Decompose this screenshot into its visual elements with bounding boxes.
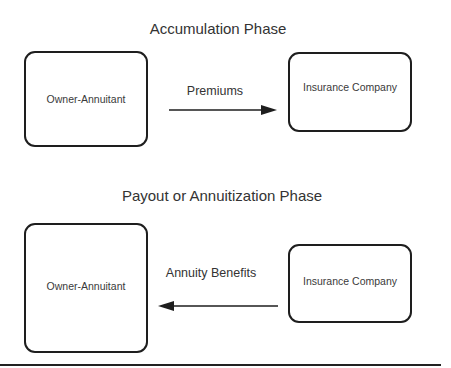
box-label: Insurance Company — [303, 81, 397, 93]
accumulation-owner-annuitant-box: Owner-Annuitant — [24, 51, 148, 147]
bottom-divider — [0, 364, 441, 366]
annuity-benefits-label: Annuity Benefits — [166, 266, 256, 280]
box-label: Owner-Annuitant — [47, 93, 126, 105]
arrow-right-icon — [165, 102, 281, 118]
payout-insurance-company-box: Insurance Company — [288, 244, 412, 323]
box-label: Owner-Annuitant — [47, 280, 126, 292]
accumulation-phase-title: Accumulation Phase — [150, 20, 287, 37]
arrow-left-icon — [154, 298, 282, 314]
accumulation-insurance-company-box: Insurance Company — [288, 52, 412, 132]
box-label: Insurance Company — [303, 275, 397, 287]
payout-owner-annuitant-box: Owner-Annuitant — [24, 223, 148, 353]
premiums-label: Premiums — [187, 84, 243, 98]
payout-phase-title: Payout or Annuitization Phase — [122, 187, 322, 204]
